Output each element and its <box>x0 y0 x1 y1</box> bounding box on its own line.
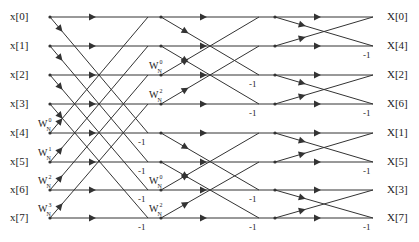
arrow-icon <box>298 194 307 203</box>
minus-one-label: -1 <box>138 138 146 147</box>
twiddle-factor-label: W2N <box>38 173 56 190</box>
arrow-icon <box>181 199 191 209</box>
arrow-icon <box>298 21 307 30</box>
twiddle-factor-label: W3N <box>38 201 56 218</box>
arrow-icon <box>89 101 96 108</box>
output-label: X[1] <box>387 127 408 138</box>
arrow-icon <box>200 215 207 222</box>
arrow-icon <box>200 14 207 21</box>
twiddle-factor-label: W0N <box>149 173 167 190</box>
arrow-icon <box>314 159 321 166</box>
arrow-icon <box>314 187 321 194</box>
arrow-icon <box>314 130 321 137</box>
input-label: x[0] <box>10 11 28 22</box>
minus-one-label: -1 <box>138 223 146 232</box>
arrow-icon <box>181 56 191 66</box>
output-label: X[7] <box>387 212 408 223</box>
input-label: x[1] <box>10 40 28 51</box>
twiddle-factor-label: W2N <box>149 201 167 218</box>
arrow-icon <box>89 215 96 222</box>
arrow-icon <box>298 79 307 88</box>
arrow-icon <box>298 150 307 159</box>
arrow-icon <box>181 143 191 153</box>
arrow-icon <box>298 206 307 215</box>
arrow-icon <box>89 130 96 137</box>
arrow-icon <box>298 92 307 101</box>
output-label: X[0] <box>387 11 408 22</box>
twiddle-factor-label: W0N <box>38 116 56 133</box>
arrow-icon <box>314 43 321 50</box>
input-label: x[4] <box>10 127 28 138</box>
twiddle-factor-label: W1N <box>38 145 56 162</box>
output-label: X[5] <box>387 156 408 167</box>
arrow-icon <box>200 130 207 137</box>
minus-one-label: -1 <box>138 195 146 204</box>
arrow-icon <box>314 72 321 79</box>
output-label: X[6] <box>387 98 408 109</box>
fft-butterfly-diagram <box>0 0 419 242</box>
minus-one-label: -1 <box>249 223 257 232</box>
arrow-icon <box>200 101 207 108</box>
arrow-icon <box>181 85 191 95</box>
minus-one-label: -1 <box>249 80 257 89</box>
minus-one-label: -1 <box>138 167 146 176</box>
arrow-icon <box>181 27 191 37</box>
twiddle-factor-label: W0N <box>149 58 167 75</box>
arrow-icon <box>314 14 321 21</box>
output-label: X[2] <box>387 69 408 80</box>
arrow-icon <box>314 215 321 222</box>
minus-one-label: -1 <box>363 223 371 232</box>
twiddle-factor-label: W2N <box>149 87 167 104</box>
arrow-icon <box>298 34 307 43</box>
minus-one-label: -1 <box>363 109 371 118</box>
minus-one-label: -1 <box>249 109 257 118</box>
input-label: x[7] <box>10 212 28 223</box>
input-label: x[6] <box>10 184 28 195</box>
output-label: X[3] <box>387 184 408 195</box>
arrow-icon <box>89 14 96 21</box>
arrow-icon <box>89 72 96 79</box>
arrow-icon <box>298 137 307 146</box>
arrow-icon <box>89 159 96 166</box>
arrow-icon <box>89 187 96 194</box>
arrow-icon <box>181 171 191 181</box>
minus-one-label: -1 <box>249 195 257 204</box>
minus-one-label: -1 <box>363 51 371 60</box>
output-label: X[4] <box>387 40 408 51</box>
input-label: x[3] <box>10 98 28 109</box>
arrow-icon <box>89 43 96 50</box>
arrow-icon <box>314 101 321 108</box>
input-label: x[2] <box>10 69 28 80</box>
input-label: x[5] <box>10 156 28 167</box>
minus-one-label: -1 <box>363 167 371 176</box>
